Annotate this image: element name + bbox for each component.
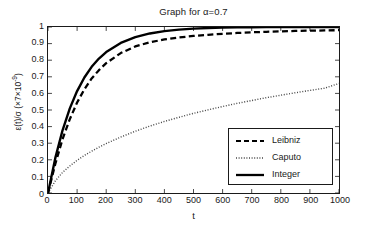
- x-axis-tick-label: 600: [215, 196, 230, 205]
- legend-swatch-dashed-icon: [235, 136, 265, 146]
- chart-title: Graph for α=0.7: [47, 6, 340, 17]
- y-axis-tick-label: 0: [0, 190, 44, 199]
- legend-label: Integer: [272, 170, 300, 179]
- legend-label: Caputo: [272, 153, 301, 162]
- x-axis-label: t: [47, 210, 340, 221]
- legend-label: Leibniz: [272, 136, 301, 145]
- legend-item-integer: Integer: [229, 166, 332, 183]
- legend-item-leibniz: Leibniz: [229, 132, 332, 149]
- y-axis-label: ε(t)/σ (×7×10-9): [11, 47, 23, 157]
- x-axis-tick-label: 300: [127, 196, 142, 205]
- x-axis-tick-label: 0: [44, 196, 49, 205]
- x-axis-tick-label: 700: [245, 196, 260, 205]
- figure-canvas: Graph for α=0.7 00.10.20.30.40.50.60.70.…: [0, 0, 365, 232]
- y-axis-tick-label: 0.2: [0, 156, 44, 165]
- y-axis-tick-label: 0.1: [0, 173, 44, 182]
- x-axis-tick-label: 800: [274, 196, 289, 205]
- x-axis-tick-label: 1000: [330, 196, 350, 205]
- x-axis-tick-label: 400: [157, 196, 172, 205]
- chart-legend: Leibniz Caputo Integer: [228, 128, 333, 185]
- x-axis-tick-label: 900: [303, 196, 318, 205]
- x-axis-tick-label: 200: [98, 196, 113, 205]
- y-axis-tick-label: 1: [0, 22, 44, 31]
- x-axis-tick-label: 500: [186, 196, 201, 205]
- legend-item-caputo: Caputo: [229, 149, 332, 166]
- x-axis-tick-label: 100: [69, 196, 84, 205]
- legend-swatch-solid-icon: [235, 170, 265, 180]
- legend-swatch-dotted-icon: [235, 153, 265, 163]
